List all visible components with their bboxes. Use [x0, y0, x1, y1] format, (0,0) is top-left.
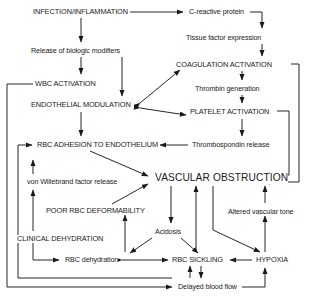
node-endothelial-modulation: ENDOTHELIAL MODULATION — [31, 101, 131, 109]
edge-delayedflow-hypoxia — [242, 268, 265, 287]
diagram-canvas: INFECTION/INFLAMMATION C-reactive protei… — [0, 0, 309, 300]
node-clinical-dehydration: CLINICAL DEHYDRATION — [17, 235, 103, 243]
node-infection-inflammation: INFECTION/INFLAMMATION — [33, 8, 128, 16]
node-thrombin-generation: Thrombin generation — [195, 85, 259, 93]
node-rbc-sickling: RBC SICKLING — [172, 256, 223, 264]
edge-rbcadhesion-vascular — [90, 151, 148, 176]
node-rbc-dehydration: RBC dehydration — [65, 256, 118, 264]
node-acidosis: Acidosis — [155, 228, 181, 236]
node-altered-vascular-tone: Altered vascular tone — [228, 208, 293, 216]
node-release-biologic-modifiers: Release of biologic modifiers — [31, 47, 120, 55]
node-coagulation-activation: COAGULATION ACTIVATION — [176, 61, 272, 69]
edge-acidosis-rbcsickling — [181, 238, 198, 253]
edge-vascular-hypoxia — [213, 186, 260, 252]
node-poor-rbc-deformability: POOR RBC DEFORMABILITY — [46, 207, 145, 215]
edge-endothelial-platelet — [140, 108, 186, 115]
node-thrombospondin-release: Thrombospondin release — [192, 141, 269, 149]
node-wbc-activation: WBC ACTIVATION — [35, 80, 96, 88]
node-von-willebrand-factor-release: von Willebrand factor release — [27, 178, 117, 186]
edge-crp-tissuefactor — [250, 12, 262, 28]
edge-clinicaldehy-rbcdehy — [33, 243, 59, 260]
edge-poordeform-vascular — [112, 184, 148, 204]
node-vascular-obstruction: VASCULAR OBSTRUCTION — [155, 173, 288, 184]
node-hypoxia: HYPOXIA — [256, 256, 288, 264]
edge-acidosis-rbcdehy — [130, 238, 152, 253]
node-delayed-blood-flow: Delayed blood flow — [178, 283, 237, 291]
edge-endothelial-coagulation — [140, 70, 180, 103]
node-platelet-activation: PLATELET ACTIVATION — [190, 108, 269, 116]
edge-coagulation-vascular — [264, 64, 299, 182]
node-c-reactive-protein: C-reactive protein — [189, 8, 244, 16]
node-tissue-factor-expression: Tissue factor expression — [186, 34, 261, 42]
node-rbc-adhesion-to-endothelium: RBC ADHESION TO ENDOTHELIUM — [37, 141, 158, 149]
